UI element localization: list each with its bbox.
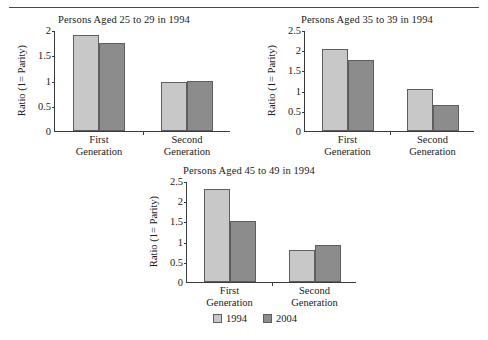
bar-2004-second-generation bbox=[433, 105, 459, 131]
bar-1994-first-generation bbox=[204, 189, 230, 282]
bar-2004-first-generation bbox=[99, 43, 125, 131]
y-tick-mark bbox=[52, 82, 56, 83]
legend: 19942004 bbox=[213, 313, 297, 324]
chart-panel-35-to-39: Persons Aged 35 to 39 in 1994 Ratio (1= … bbox=[252, 14, 482, 166]
x-category-label: FirstGeneration bbox=[206, 285, 253, 309]
y-tick-mark bbox=[52, 107, 56, 108]
bar-1994-second-generation bbox=[289, 250, 315, 282]
x-tick-mark bbox=[390, 131, 391, 135]
bar-group bbox=[55, 31, 230, 131]
bar-2004-second-generation bbox=[187, 81, 213, 132]
y-axis-label: Ratio (1= Parity) bbox=[148, 181, 159, 282]
y-axis-label: Ratio (1= Parity) bbox=[266, 30, 277, 131]
legend-label: 2004 bbox=[276, 313, 297, 324]
chart-title: Persons Aged 35 to 39 in 1994 bbox=[252, 14, 482, 25]
chart-panel-45-to-49: Persons Aged 45 to 49 in 1994 Ratio (1= … bbox=[134, 165, 364, 317]
legend-swatch-icon bbox=[263, 314, 272, 323]
y-tick-mark bbox=[184, 182, 188, 183]
x-tick-mark bbox=[272, 282, 273, 286]
bar-2004-first-generation bbox=[348, 60, 374, 131]
chart-title: Persons Aged 45 to 49 in 1994 bbox=[134, 165, 364, 176]
chart-panel-25-to-29: Persons Aged 25 to 29 in 1994 Ratio (1= … bbox=[8, 14, 240, 166]
x-category-label: SecondGeneration bbox=[291, 285, 338, 309]
y-tick-label: 0 bbox=[46, 127, 55, 138]
x-tick-mark bbox=[143, 131, 144, 135]
header-divider bbox=[9, 7, 479, 8]
bar-1994-second-generation bbox=[407, 89, 433, 131]
bar-2004-first-generation bbox=[230, 221, 256, 282]
bar-1994-first-generation bbox=[322, 49, 348, 131]
bar-1994-second-generation bbox=[161, 82, 187, 131]
bar-1994-first-generation bbox=[73, 35, 99, 131]
y-tick-label: 0 bbox=[296, 127, 305, 138]
y-tick-mark bbox=[302, 92, 306, 93]
legend-label: 1994 bbox=[226, 313, 247, 324]
legend-item-2004: 2004 bbox=[263, 313, 297, 324]
y-tick-mark bbox=[184, 202, 188, 203]
x-category-label: FirstGeneration bbox=[76, 134, 123, 158]
plot-area: 00.511.522.5FirstGenerationSecondGenerat… bbox=[304, 31, 474, 132]
y-axis-label: Ratio (1= Parity) bbox=[16, 30, 27, 131]
x-category-label: SecondGeneration bbox=[409, 134, 456, 158]
bar-group bbox=[305, 31, 474, 131]
x-category-label: FirstGeneration bbox=[324, 134, 371, 158]
plot-area: 00.511.522.5FirstGenerationSecondGenerat… bbox=[186, 182, 356, 283]
legend-item-1994: 1994 bbox=[213, 313, 247, 324]
y-tick-mark bbox=[184, 263, 188, 264]
y-tick-mark bbox=[52, 31, 56, 32]
chart-title: Persons Aged 25 to 29 in 1994 bbox=[8, 14, 240, 25]
y-tick-mark bbox=[52, 56, 56, 57]
y-tick-mark bbox=[302, 112, 306, 113]
bar-2004-second-generation bbox=[315, 245, 341, 282]
y-tick-mark bbox=[302, 51, 306, 52]
y-tick-label: 0 bbox=[178, 278, 187, 289]
y-tick-mark bbox=[302, 31, 306, 32]
y-tick-mark bbox=[302, 71, 306, 72]
x-category-label: SecondGeneration bbox=[164, 134, 211, 158]
plot-area: 00.511.52FirstGenerationSecondGeneration bbox=[54, 31, 230, 132]
legend-swatch-icon bbox=[213, 314, 222, 323]
y-tick-mark bbox=[184, 243, 188, 244]
y-tick-mark bbox=[184, 222, 188, 223]
bar-group bbox=[187, 182, 356, 282]
